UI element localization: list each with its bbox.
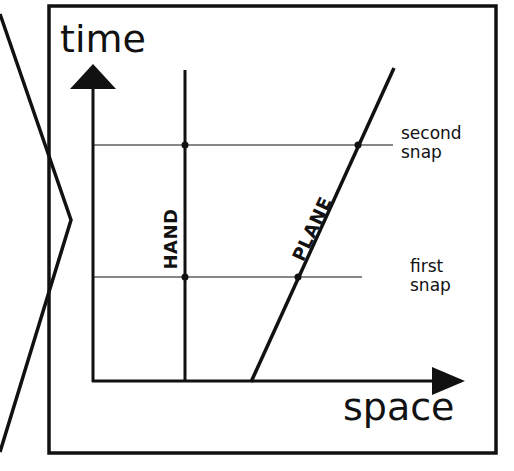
left-zigzag-edge xyxy=(0,14,71,452)
first-snap-label-line1: first xyxy=(410,257,451,276)
time-axis-arrowhead-icon xyxy=(70,64,116,89)
plane-first-snap-dot xyxy=(295,274,302,281)
hand-second-snap-dot xyxy=(182,142,189,149)
hand-label: HAND xyxy=(162,208,180,269)
first-snap-label: first snap xyxy=(410,257,451,295)
space-axis-label: space xyxy=(343,388,454,426)
second-snap-label: second snap xyxy=(401,124,462,162)
first-snap-label-line2: snap xyxy=(410,276,451,295)
hand-first-snap-dot xyxy=(182,274,189,281)
plane-second-snap-dot xyxy=(355,142,362,149)
time-axis-label: time xyxy=(60,20,146,58)
second-snap-label-line1: second xyxy=(401,124,462,143)
second-snap-label-line2: snap xyxy=(401,143,462,162)
